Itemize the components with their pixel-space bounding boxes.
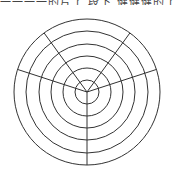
polar-grid-diagram — [0, 0, 179, 181]
radial-spokes — [18, 33, 157, 165]
spoke — [44, 33, 87, 92]
spoke — [87, 33, 130, 92]
spoke — [18, 69, 87, 92]
spoke — [87, 69, 156, 92]
